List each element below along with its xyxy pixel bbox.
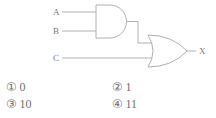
options-row-second: ③10 ④11 bbox=[0, 96, 216, 113]
options-row-first: ①0 ②1 bbox=[0, 79, 216, 96]
option-2[interactable]: ②1 bbox=[112, 79, 132, 96]
logic-circuit-diagram: A B C X bbox=[0, 0, 216, 78]
option-2-marker: ② bbox=[112, 80, 124, 94]
page-root: A B C X ①0 ②1 ③10 ④11 bbox=[0, 0, 216, 118]
option-4-marker: ④ bbox=[112, 97, 124, 111]
option-2-value: 1 bbox=[126, 80, 132, 94]
and-gate bbox=[96, 5, 127, 38]
wire-and-to-or bbox=[127, 22, 153, 44]
option-1-marker: ① bbox=[6, 80, 18, 94]
input-label-c: C bbox=[53, 53, 59, 63]
option-3[interactable]: ③10 bbox=[6, 96, 32, 113]
option-3-marker: ③ bbox=[6, 97, 18, 111]
input-label-b: B bbox=[53, 26, 59, 36]
output-label-x: X bbox=[199, 46, 206, 56]
or-gate bbox=[148, 35, 187, 67]
option-4[interactable]: ④11 bbox=[112, 96, 137, 113]
option-4-value: 11 bbox=[126, 97, 138, 111]
option-1-value: 0 bbox=[20, 80, 26, 94]
option-3-value: 10 bbox=[20, 97, 32, 111]
input-label-a: A bbox=[53, 7, 60, 17]
option-1[interactable]: ①0 bbox=[6, 79, 26, 96]
